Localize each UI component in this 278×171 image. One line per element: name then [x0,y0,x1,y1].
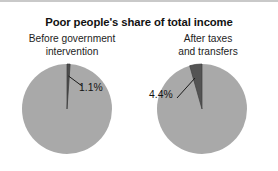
value-label-after: 4.4% [149,89,173,100]
page-title: Poor people's share of total income [0,16,278,28]
chart-figure: Poor people's share of total income Befo… [0,0,278,171]
pie-chart-after [155,56,253,164]
panel-caption-before: Before government intervention [6,33,138,58]
pie-chart-before [20,56,118,164]
value-label-before: 1.1% [79,82,103,93]
panel-caption-before-line1: Before government [6,33,138,46]
panel-caption-after-line1: After taxes [142,33,274,46]
panel-caption-after: After taxes and transfers [142,33,274,58]
